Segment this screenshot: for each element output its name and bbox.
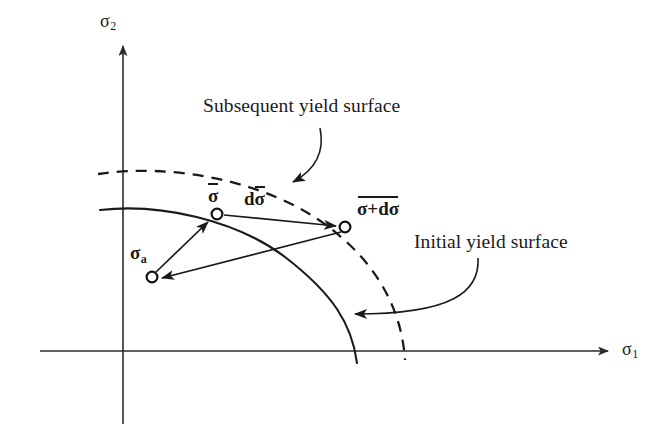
back-stress-symbol: σ (130, 242, 140, 263)
updated-stress-point-label: σ+dσ (357, 199, 399, 218)
diagram-canvas (0, 0, 666, 447)
back-stress-to-current-vector (156, 222, 208, 272)
subsequent-caption-leader (293, 128, 321, 182)
stress-increment-vector-label: dσ (244, 189, 265, 208)
current-stress-point-marker (212, 209, 223, 220)
x-axis-label-symbol: σ (622, 339, 632, 359)
y-axis-label-symbol: σ (100, 11, 110, 31)
differential-d: d (244, 188, 255, 209)
initial-caption-leader (355, 258, 478, 314)
y-axis-label-subscript: 2 (110, 19, 117, 33)
current-stress-point-label: σ (208, 186, 218, 205)
subsequent-yield-surface-caption: Subsequent yield surface (203, 96, 400, 116)
current-stress-overbar-group: σ (208, 186, 218, 205)
overbar-rule (208, 183, 218, 185)
x-axis-label-subscript: 1 (632, 347, 639, 361)
initial-yield-surface-caption: Initial yield surface (414, 232, 568, 252)
updated-stress-point-marker (340, 222, 351, 233)
stress-increment-overbar-group: σ (255, 189, 265, 208)
overbar-rule (358, 196, 398, 198)
updated-stress-overbar-group: σ+dσ (357, 199, 399, 218)
back-stress-point-label: σa (130, 243, 147, 265)
y-axis-label: σ2 (100, 12, 116, 32)
current-stress-symbol: σ (208, 185, 218, 206)
x-axis-label: σ1 (622, 340, 638, 360)
yield-surface-diagram: σ2 σ1 Subsequent yield surface Initial y… (0, 0, 666, 447)
updated-to-back-stress-vector (162, 232, 341, 278)
back-stress-point-marker (147, 272, 158, 283)
initial-yield-surface-curve (100, 208, 357, 363)
overbar-rule (255, 186, 265, 188)
updated-stress-symbol: σ+dσ (357, 198, 399, 219)
stress-increment-symbol: σ (255, 188, 265, 209)
back-stress-subscript: a (140, 252, 147, 266)
